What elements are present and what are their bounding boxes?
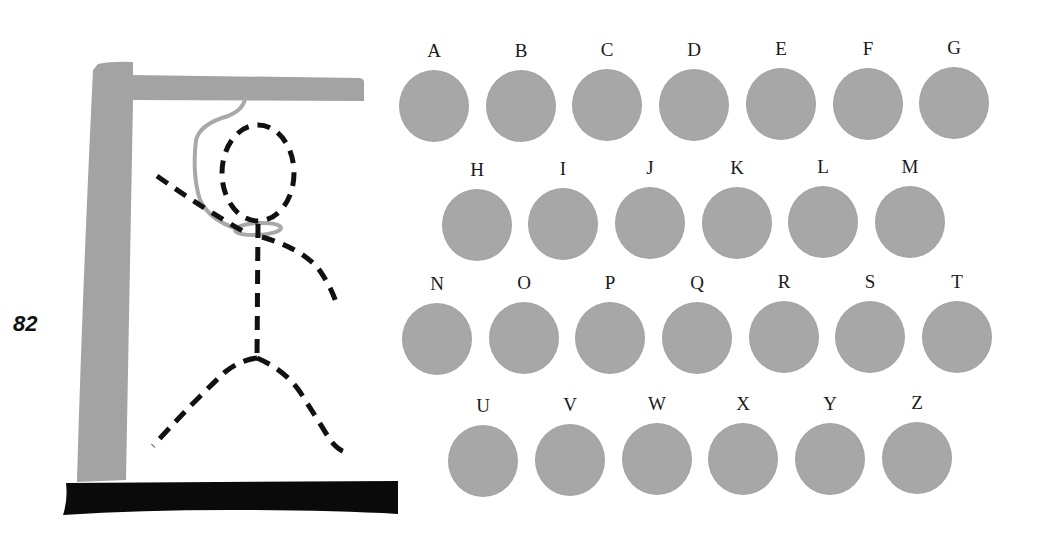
letter-button-k[interactable]: K xyxy=(701,157,773,267)
letter-button-b[interactable]: B xyxy=(485,40,557,150)
letter-label: R xyxy=(748,271,820,293)
letter-label: W xyxy=(621,393,693,415)
letter-button-s[interactable]: S xyxy=(834,271,906,381)
letter-label: G xyxy=(918,37,990,59)
letter-button-g[interactable]: G xyxy=(918,37,990,147)
letter-disc[interactable] xyxy=(702,187,772,259)
gallows-base xyxy=(63,481,398,515)
letter-disc[interactable] xyxy=(622,423,692,495)
letter-disc[interactable] xyxy=(788,186,858,258)
letter-button-h[interactable]: H xyxy=(441,159,513,269)
letter-label: D xyxy=(658,39,730,61)
letter-disc[interactable] xyxy=(833,68,903,140)
letter-button-n[interactable]: N xyxy=(401,273,473,383)
letter-disc[interactable] xyxy=(575,302,645,374)
letter-label: B xyxy=(485,40,557,62)
letter-button-y[interactable]: Y xyxy=(794,393,866,503)
letter-disc[interactable] xyxy=(399,70,469,142)
head xyxy=(222,125,294,221)
letter-button-d[interactable]: D xyxy=(658,39,730,149)
letter-disc[interactable] xyxy=(528,188,598,260)
letter-disc[interactable] xyxy=(662,302,732,374)
letter-disc[interactable] xyxy=(572,69,642,141)
letter-label: J xyxy=(614,157,686,179)
right-leg xyxy=(257,358,345,452)
letter-disc[interactable] xyxy=(749,301,819,373)
letter-disc[interactable] xyxy=(659,69,729,141)
letter-label: I xyxy=(527,158,599,180)
letter-button-u[interactable]: U xyxy=(447,395,519,505)
left-leg xyxy=(153,358,257,446)
letter-disc[interactable] xyxy=(922,301,992,373)
letter-button-i[interactable]: I xyxy=(527,158,599,268)
letter-label: S xyxy=(834,271,906,293)
letter-disc[interactable] xyxy=(489,302,559,374)
letter-button-a[interactable]: A xyxy=(398,40,470,150)
letter-label: L xyxy=(787,156,859,178)
letter-label: N xyxy=(401,273,473,295)
letter-disc[interactable] xyxy=(442,189,512,261)
gallows-post xyxy=(77,62,133,482)
letter-disc[interactable] xyxy=(402,303,472,375)
letter-label: E xyxy=(745,38,817,60)
letter-label: Z xyxy=(881,392,953,414)
letter-button-e[interactable]: E xyxy=(745,38,817,148)
letter-button-x[interactable]: X xyxy=(707,393,779,503)
letter-label: Y xyxy=(794,393,866,415)
letter-label: K xyxy=(701,157,773,179)
letter-disc[interactable] xyxy=(919,67,989,139)
letter-label: V xyxy=(534,394,606,416)
right-arm xyxy=(262,237,336,302)
letter-button-v[interactable]: V xyxy=(534,394,606,504)
letter-disc[interactable] xyxy=(835,301,905,373)
letter-label: P xyxy=(574,272,646,294)
hangman-drawing xyxy=(0,0,410,552)
letter-button-r[interactable]: R xyxy=(748,271,820,381)
letter-disc[interactable] xyxy=(708,423,778,495)
letter-button-f[interactable]: F xyxy=(832,38,904,148)
letter-disc[interactable] xyxy=(882,422,952,494)
letter-disc[interactable] xyxy=(448,425,518,497)
letter-button-t[interactable]: T xyxy=(921,271,993,381)
letter-label: H xyxy=(441,159,513,181)
letter-label: C xyxy=(571,39,643,61)
letter-disc[interactable] xyxy=(615,187,685,259)
letter-button-q[interactable]: Q xyxy=(661,272,733,382)
letter-disc[interactable] xyxy=(486,70,556,142)
letter-button-l[interactable]: L xyxy=(787,156,859,266)
left-arm xyxy=(157,176,248,234)
letter-label: X xyxy=(707,393,779,415)
letter-label: Q xyxy=(661,272,733,294)
letter-label: O xyxy=(488,272,560,294)
letter-label: M xyxy=(874,156,946,178)
letter-button-z[interactable]: Z xyxy=(881,392,953,502)
letter-label: A xyxy=(398,40,470,62)
letter-button-p[interactable]: P xyxy=(574,272,646,382)
letter-label: T xyxy=(921,271,993,293)
letter-button-j[interactable]: J xyxy=(614,157,686,267)
letter-label: F xyxy=(832,38,904,60)
letter-button-m[interactable]: M xyxy=(874,156,946,266)
letter-disc[interactable] xyxy=(795,423,865,495)
letter-button-c[interactable]: C xyxy=(571,39,643,149)
letter-label: U xyxy=(447,395,519,417)
letter-button-o[interactable]: O xyxy=(488,272,560,382)
letter-button-w[interactable]: W xyxy=(621,393,693,503)
gallows-beam xyxy=(130,75,364,101)
letter-disc[interactable] xyxy=(746,68,816,140)
letter-disc[interactable] xyxy=(875,186,945,258)
body xyxy=(257,224,258,358)
letter-disc[interactable] xyxy=(535,424,605,496)
